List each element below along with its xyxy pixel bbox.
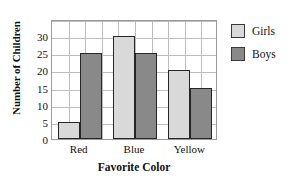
chart-legend: GirlsBoys — [231, 24, 276, 61]
y-tick-label: 30 — [24, 32, 48, 43]
gridline-vertical — [102, 21, 103, 139]
bar-yellow-boys — [190, 88, 212, 139]
x-tick-label-red: Red — [70, 143, 88, 155]
y-axis-title: Number of Children — [10, 8, 22, 128]
y-tick-label: 5 — [24, 117, 48, 128]
y-tick-label: 0 — [24, 135, 48, 146]
girls-swatch-icon — [231, 24, 245, 38]
bar-red-boys — [80, 53, 102, 139]
bar-blue-boys — [135, 53, 157, 139]
bar-blue-girls — [113, 36, 135, 139]
y-axis-tick-labels: 051015202530 — [24, 20, 48, 140]
x-tick-label-yellow: Yellow — [174, 143, 205, 155]
gridline-horizontal — [52, 21, 216, 22]
legend-item-girls[interactable]: Girls — [231, 24, 276, 38]
y-tick-label: 10 — [24, 100, 48, 111]
legend-label: Girls — [252, 25, 275, 37]
bar-yellow-girls — [168, 70, 190, 139]
y-tick-label: 20 — [24, 66, 48, 77]
plot-area — [51, 20, 217, 140]
x-axis-title: Favorite Color — [51, 161, 217, 173]
y-tick-label: 25 — [24, 49, 48, 60]
x-axis-tick-labels: RedBlueYellow — [51, 143, 217, 159]
legend-item-boys[interactable]: Boys — [231, 47, 276, 61]
bar-red-girls — [58, 122, 80, 139]
x-tick-label-blue: Blue — [124, 143, 145, 155]
legend-label: Boys — [252, 48, 276, 60]
y-tick-label: 15 — [24, 83, 48, 94]
boys-swatch-icon — [231, 47, 245, 61]
bar-chart: Number of Children 051015202530 RedBlueY… — [0, 0, 297, 182]
